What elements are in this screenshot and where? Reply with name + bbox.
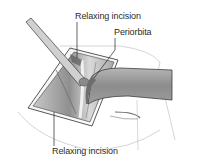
retractor-band bbox=[86, 68, 172, 104]
illustration: Relaxing incision Periorbita Relaxing in… bbox=[0, 0, 199, 168]
label-relaxing-incision-top: Relaxing incision bbox=[75, 11, 141, 21]
label-relaxing-incision-bottom: Relaxing incision bbox=[52, 146, 118, 156]
surgical-diagram bbox=[0, 0, 199, 168]
label-periorbita: Periorbita bbox=[114, 27, 152, 37]
